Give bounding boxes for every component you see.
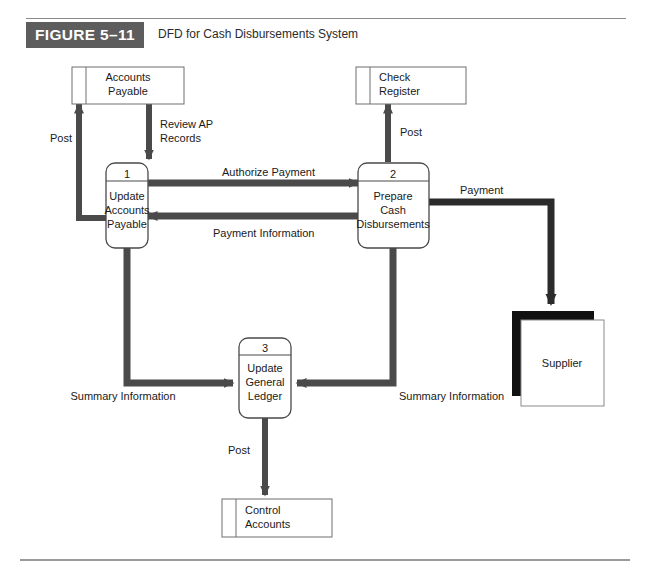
process-prepare-cash-disbursements[interactable]: 2 Prepare Cash Disbursements: [356, 163, 430, 248]
data-store-check-register[interactable]: Check Register: [356, 67, 466, 104]
process-update-general-ledger[interactable]: 3 Update General Ledger: [239, 338, 291, 418]
flow-post-control-accounts: Post: [228, 417, 265, 495]
flow-summary-information-right: Summary Information: [297, 248, 504, 402]
flow-label-summary-information-right: Summary Information: [399, 390, 504, 402]
process-label-line2: Accounts: [104, 204, 150, 216]
data-store-label-line2: Payable: [108, 85, 148, 97]
process-number: 2: [390, 168, 396, 180]
entity-label: Supplier: [542, 357, 583, 369]
flow-post-check-register: Post: [388, 104, 422, 162]
flow-label-post-control-accounts: Post: [228, 444, 250, 456]
figure-caption: DFD for Cash Disbursements System: [158, 27, 358, 41]
flow-label-post-accounts-payable: Post: [50, 132, 72, 144]
flow-summary-information-left: Summary Information: [70, 248, 233, 402]
flow-arrow-line: [79, 104, 106, 218]
process-label-line3: Disbursements: [356, 218, 430, 230]
flow-arrow-line: [297, 248, 393, 383]
process-label-line3: Ledger: [248, 390, 283, 402]
process-label-line2: General: [245, 376, 284, 388]
process-label-line1: Update: [109, 190, 144, 202]
data-store-label-line2: Accounts: [245, 518, 291, 530]
figure-container: FIGURE 5–11 DFD for Cash Disbursements S…: [0, 0, 649, 584]
flow-authorize-payment: Authorize Payment: [148, 166, 358, 183]
process-label-line3: Payable: [107, 218, 147, 230]
flow-label-summary-information-left: Summary Information: [70, 390, 175, 402]
process-label-line1: Update: [247, 362, 282, 374]
data-store-label-line1: Accounts: [105, 71, 151, 83]
flow-payment-information: Payment Information: [148, 216, 358, 239]
data-store-label-line1: Control: [245, 504, 280, 516]
process-label-line2: Cash: [380, 204, 406, 216]
flow-post-accounts-payable: Post: [50, 104, 106, 218]
flow-payment: Payment: [429, 184, 551, 304]
data-store-accounts-payable[interactable]: Accounts Payable: [72, 67, 184, 104]
flow-review-ap-records: Review AP Records: [149, 100, 213, 159]
data-store-label-line1: Check: [379, 71, 411, 83]
data-store-control-accounts[interactable]: Control Accounts: [222, 499, 332, 537]
flow-label-review-ap-records-line1: Review AP: [160, 118, 213, 130]
flow-arrow-line: [429, 202, 551, 304]
flow-label-payment: Payment: [460, 184, 503, 196]
flow-arrow-line: [127, 248, 233, 383]
flow-label-authorize-payment: Authorize Payment: [222, 166, 315, 178]
figure-number-badge: FIGURE 5–11: [26, 22, 144, 48]
process-number: 1: [124, 168, 130, 180]
dfd-diagram: Review AP Records Post Authorize Payment…: [0, 52, 649, 552]
process-number: 3: [262, 342, 268, 354]
flow-label-payment-information: Payment Information: [213, 227, 315, 239]
flow-label-review-ap-records-line2: Records: [160, 132, 201, 144]
flow-label-post-check-register: Post: [400, 126, 422, 138]
figure-bottom-rule: [20, 559, 630, 561]
process-label-line1: Prepare: [373, 190, 412, 202]
process-update-accounts-payable[interactable]: 1 Update Accounts Payable: [104, 163, 150, 248]
external-entity-supplier[interactable]: Supplier: [512, 311, 604, 406]
figure-top-rule: [26, 18, 626, 19]
data-store-label-line2: Register: [379, 85, 420, 97]
